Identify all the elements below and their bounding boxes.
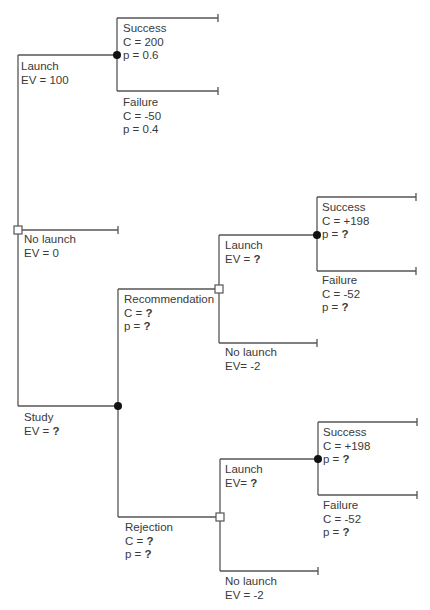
decision-tree-lines [0, 0, 430, 610]
chance-node-launch [113, 51, 121, 59]
label-rec-launch-success: Success C = +198 p = ? [322, 201, 369, 242]
decision-node-root [14, 226, 22, 234]
label-launch: Launch EV = 100 [21, 60, 69, 87]
label-rec-launch-failure: Failure C = -52 p = ? [322, 274, 360, 315]
label-study: Study EV = ? [24, 411, 59, 438]
chance-node-rej-launch [314, 455, 322, 463]
chance-node-rec-launch [313, 231, 321, 239]
label-rec-no-launch: No launch EV= -2 [225, 346, 277, 373]
label-launch-success: Success C = 200 p = 0.6 [123, 22, 166, 63]
label-rejection: Rejection C = ? p = ? [125, 521, 173, 562]
label-rej-launch-success: Success C = +198 p = ? [323, 426, 370, 467]
label-rej-launch: Launch EV= ? [225, 463, 263, 490]
label-rej-launch-failure: Failure C = -52 p = ? [323, 499, 361, 540]
chance-node-study [114, 402, 122, 410]
label-recommendation: Recommendation C = ? p = ? [124, 293, 214, 334]
label-rec-launch: Launch EV = ? [225, 239, 263, 266]
decision-node-recommendation [215, 285, 223, 293]
decision-node-rejection [216, 513, 224, 521]
label-rej-no-launch: No launch EV = -2 [225, 575, 277, 602]
label-launch-failure: Failure C = -50 p = 0.4 [123, 96, 161, 137]
label-no-launch: No launch EV = 0 [24, 233, 76, 260]
